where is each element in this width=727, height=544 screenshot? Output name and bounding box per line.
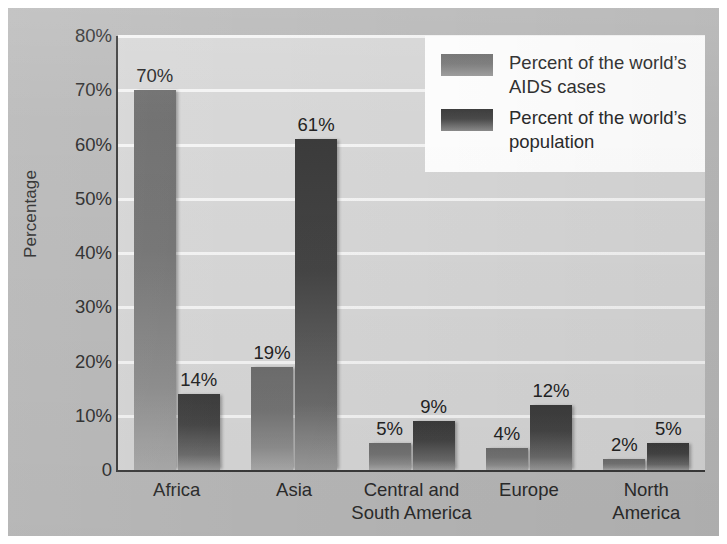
y-axis-tick-label: 40% [8,242,112,264]
legend: Percent of the world’sAIDS cases Percent… [425,36,705,172]
x-axis-label-line: Africa [153,478,200,501]
bar-value-label: 5% [655,418,682,440]
y-axis-tick-label: 70% [8,79,112,101]
y-axis-tick-label: 50% [8,188,112,210]
x-axis-label-line: Europe [499,478,559,501]
bar-shaft [603,459,645,470]
y-axis-tick-label: 30% [8,296,112,318]
y-axis-tick-label: 0 [8,459,112,481]
y-axis-tick-label: 60% [8,134,112,156]
legend-label-line: AIDS cases [509,75,687,99]
legend-label-series-0: Percent of the world’sAIDS cases [509,51,687,99]
x-axis-category-label: Africa [153,478,200,501]
y-axis-tick-labels: 010%20%30%40%50%60%70%80% [8,8,112,536]
x-axis-category-label: Asia [276,478,312,501]
legend-label-line: Percent of the world’s [509,51,687,75]
y-axis-tick-label: 80% [8,25,112,47]
bar-aids-cases[interactable]: 2% [603,459,645,470]
x-axis-category-label: NorthAmerica [612,478,680,524]
x-axis-label-line: South America [351,501,471,524]
x-axis-label-line: North [612,478,680,501]
x-axis-category-label: Europe [499,478,559,501]
x-axis-category-label: Central andSouth America [351,478,471,524]
x-axis-label-line: Central and [351,478,471,501]
bar-population[interactable]: 5% [647,443,689,470]
y-axis-tick-label: 10% [8,405,112,427]
x-axis-label-line: Asia [276,478,312,501]
bar-value-label: 2% [611,434,638,456]
chart-figure: Percentage 010%20%30%40%50%60%70%80% 70%… [8,8,719,536]
legend-label-series-1: Percent of the world’spopulation [509,106,687,154]
legend-swatch-icon-series-1 [441,109,493,131]
legend-item-population: Percent of the world’spopulation [441,106,695,154]
legend-swatch-icon-series-0 [441,54,493,76]
legend-item-aids-cases: Percent of the world’sAIDS cases [441,51,695,99]
legend-label-line: population [509,130,687,154]
x-axis-category-labels: AfricaAsiaCentral andSouth AmericaEurope… [118,478,705,534]
bar-shaft [647,443,689,470]
legend-label-line: Percent of the world’s [509,106,687,130]
x-axis-label-line: America [612,501,680,524]
y-axis-tick-label: 20% [8,351,112,373]
